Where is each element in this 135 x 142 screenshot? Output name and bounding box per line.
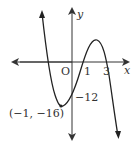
curve-arrow-top: [39, 10, 45, 18]
curve-arrow-bottom: [115, 131, 121, 139]
min-point-label: (−1, −16): [9, 107, 64, 120]
x-axis-label: x: [124, 64, 131, 77]
x-tick-3: 3: [103, 65, 110, 78]
y-tick-neg12: −12: [75, 91, 98, 104]
cubic-graph: y x O 1 3 −12 (−1, −16): [0, 0, 135, 142]
x-tick-1: 1: [84, 65, 91, 78]
origin-label: O: [61, 65, 70, 78]
y-axis-label: y: [76, 8, 84, 21]
